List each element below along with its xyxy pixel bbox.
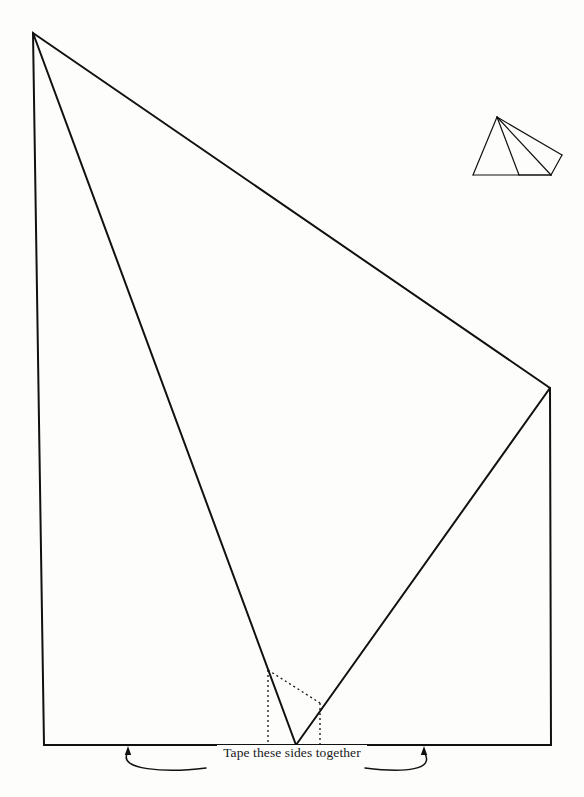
assembled-pyramid-thumbnail — [473, 117, 562, 175]
worksheet-page: Tape these sides together — [0, 0, 584, 797]
thumbnail-edge-apex-to-front_right — [497, 117, 551, 175]
thumbnail-edge-apex-to-front_left — [473, 117, 497, 175]
dotted-diagonal — [268, 670, 320, 703]
right-arrowhead-icon — [421, 746, 427, 755]
net-outline-group — [33, 33, 551, 745]
thumbnail-edge-apex-to-back_left — [497, 117, 519, 175]
pointer-arrows-group — [125, 746, 427, 770]
left-arrowhead-icon — [125, 746, 131, 755]
net-outline-path — [33, 33, 551, 745]
fold-line-right — [296, 388, 550, 745]
pyramid-net-drawing — [0, 0, 584, 797]
thumbnail-edge-front_right-to-back_right — [551, 155, 562, 175]
dotted-tab-guides — [268, 670, 320, 745]
fold-line-left — [33, 33, 296, 745]
thumbnail-edge-apex-to-back_right — [497, 117, 562, 155]
left-tape-arrow — [126, 752, 206, 770]
right-tape-arrow — [365, 752, 427, 770]
